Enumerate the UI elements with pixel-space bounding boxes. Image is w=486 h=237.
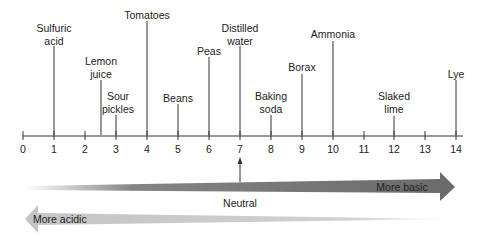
neutral-label: Neutral (223, 197, 257, 209)
svg-text:Lemon: Lemon (85, 55, 117, 67)
svg-text:Tomatoes: Tomatoes (124, 9, 170, 21)
svg-text:4: 4 (144, 143, 150, 155)
substance-tomatoes: Tomatoes (124, 9, 170, 135)
substance-ammonia: Ammonia (311, 28, 356, 135)
svg-text:7: 7 (237, 143, 243, 155)
svg-text:More basic: More basic (376, 181, 427, 193)
svg-text:pickles: pickles (102, 103, 134, 115)
ph-scale-diagram: Sulfuric acid Lemon juice Sour pickles T… (0, 0, 486, 237)
substance-slaked-lime: Slaked lime (378, 90, 410, 135)
substance-sulfuric-acid: Sulfuric acid (36, 22, 71, 135)
substance-baking-soda: Baking soda (255, 90, 287, 135)
substance-peas: Peas (197, 45, 221, 135)
substance-distilled-water: Distilled water (222, 22, 259, 135)
svg-text:acid: acid (44, 35, 63, 47)
svg-text:Slaked: Slaked (378, 90, 410, 102)
svg-text:Baking: Baking (255, 90, 287, 102)
svg-text:water: water (226, 35, 253, 47)
svg-text:0: 0 (20, 143, 26, 155)
svg-text:Borax: Borax (288, 61, 316, 73)
svg-text:8: 8 (268, 143, 274, 155)
svg-text:juice: juice (89, 68, 112, 80)
svg-text:11: 11 (359, 143, 370, 155)
axis-tick-labels: 0 1 2 3 4 5 6 7 8 9 10 11 12 13 14 (20, 143, 462, 155)
svg-text:13: 13 (419, 143, 431, 155)
svg-text:14: 14 (450, 143, 462, 155)
svg-text:1: 1 (51, 143, 57, 155)
svg-text:Sour: Sour (107, 90, 130, 102)
substance-beans: Beans (163, 92, 193, 135)
neutral-pointer-arrow (238, 157, 243, 182)
svg-text:10: 10 (327, 143, 339, 155)
substance-borax: Borax (288, 61, 316, 135)
svg-text:lime: lime (384, 103, 403, 115)
svg-text:Sulfuric: Sulfuric (36, 22, 71, 34)
svg-text:Lye: Lye (448, 68, 465, 80)
svg-text:6: 6 (206, 143, 212, 155)
svg-text:Ammonia: Ammonia (311, 28, 356, 40)
svg-text:Beans: Beans (163, 92, 193, 104)
svg-text:3: 3 (113, 143, 119, 155)
ph-axis: 0 1 2 3 4 5 6 7 8 9 10 11 12 13 14 (20, 131, 463, 155)
svg-text:Peas: Peas (197, 45, 221, 57)
svg-text:9: 9 (299, 143, 305, 155)
svg-text:More acidic: More acidic (33, 213, 87, 225)
svg-text:2: 2 (82, 143, 88, 155)
svg-text:soda: soda (260, 103, 283, 115)
svg-text:12: 12 (388, 143, 400, 155)
substance-sour-pickles: Sour pickles (102, 90, 134, 135)
more-acidic-arrow: More acidic (25, 205, 455, 233)
substance-lye: Lye (448, 68, 465, 135)
svg-text:5: 5 (175, 143, 181, 155)
svg-text:Distilled: Distilled (222, 22, 259, 34)
